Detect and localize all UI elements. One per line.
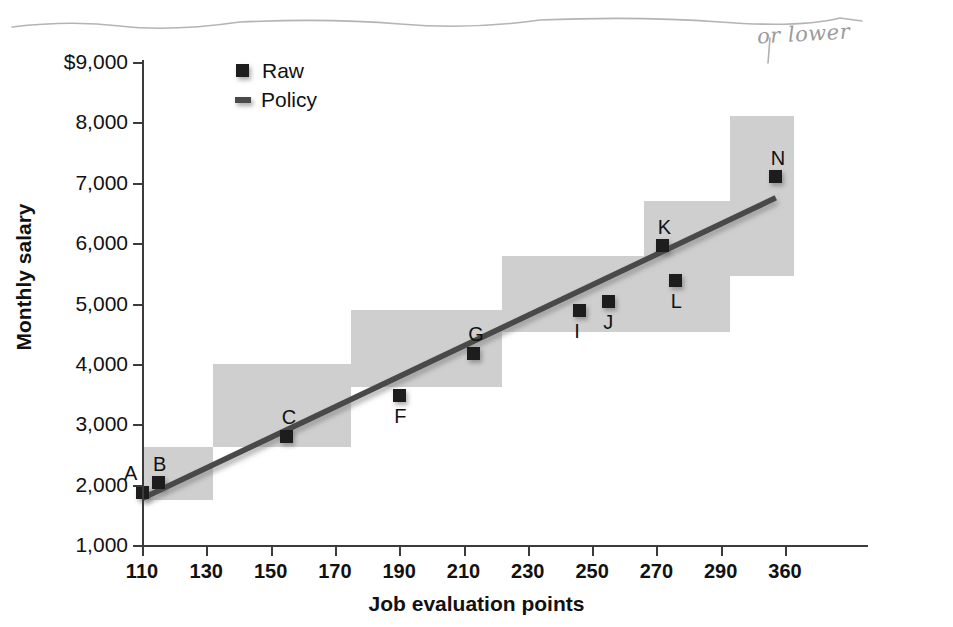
x-tick-mark [656,547,658,556]
x-tick-label: 250 [562,560,622,583]
y-tick-label: 2,000 [0,473,128,497]
data-point-label: N [771,147,785,170]
square-marker-icon [236,64,249,77]
data-point-marker [393,389,406,402]
data-point-marker [769,170,782,183]
y-tick-mark [133,243,142,245]
legend-label-policy: Policy [261,88,317,112]
y-tick-mark [133,62,142,64]
x-tick-label: 190 [369,560,429,583]
data-point-label: B [153,453,166,476]
data-point-label: G [468,323,484,346]
y-tick-label: 3,000 [0,412,128,436]
x-axis-title: Job evaluation points [0,592,953,616]
x-tick-mark [785,547,787,556]
line-marker-icon [235,97,251,103]
y-tick-mark [133,364,142,366]
x-tick-label: 150 [241,560,301,583]
y-tick-mark [133,485,142,487]
legend-item-policy: Policy [236,85,317,114]
data-point-label: I [574,320,580,343]
data-point-label: J [603,311,613,334]
y-axis-line [142,60,144,547]
data-point-marker [602,295,615,308]
y-tick-mark [133,424,142,426]
salary-structure-chart: or lower ABCFGIJKLN $9,0008,0007,0006,00… [0,0,953,627]
data-point-marker [280,430,293,443]
x-tick-label: 110 [112,560,172,583]
x-tick-mark [399,547,401,556]
y-tick-mark [133,122,142,124]
x-tick-label: 270 [626,560,686,583]
x-tick-label: 230 [498,560,558,583]
y-axis-title: Monthly salary [12,147,36,407]
y-tick-mark [133,304,142,306]
data-point-label: L [671,290,682,313]
x-tick-label: 210 [434,560,494,583]
y-tick-mark [133,183,142,185]
data-point-label: C [282,406,296,429]
chart-legend: Raw Policy [236,56,317,114]
y-tick-label: $9,000 [0,50,128,74]
x-tick-label: 360 [755,560,815,583]
x-tick-mark [592,547,594,556]
x-tick-mark [206,547,208,556]
x-tick-mark [528,547,530,556]
x-tick-mark [335,547,337,556]
x-tick-mark [271,547,273,556]
x-tick-label: 290 [691,560,751,583]
x-tick-mark [721,547,723,556]
data-point-label: F [394,405,406,428]
data-point-marker [669,274,682,287]
y-tick-label: 1,000 [0,533,128,557]
y-tick-label: 8,000 [0,110,128,134]
x-tick-mark [464,547,466,556]
data-point-marker [656,239,669,252]
legend-label-raw: Raw [262,59,304,83]
legend-item-raw: Raw [236,56,317,85]
data-point-marker [467,347,480,360]
data-point-marker [152,476,165,489]
x-axis-line [142,545,868,547]
data-point-label: K [658,216,671,239]
x-tick-label: 130 [176,560,236,583]
data-point-marker [573,304,586,317]
y-tick-mark [133,545,142,547]
x-tick-label: 170 [305,560,365,583]
x-tick-mark [142,547,144,556]
